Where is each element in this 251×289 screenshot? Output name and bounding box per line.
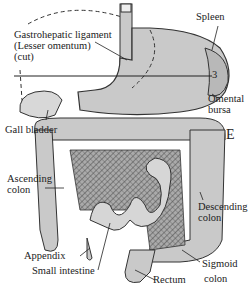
esophagus [120, 4, 132, 62]
ascending-colon [35, 130, 58, 251]
label-gastrohepatic-ligament: Gastrohepatic ligament [14, 29, 112, 40]
label-section-3: 3 [212, 69, 217, 80]
label-omental: Omental [208, 93, 244, 104]
panel-letter: E [226, 129, 235, 140]
label-rectum: Rectum [153, 274, 186, 285]
gall-bladder [20, 91, 62, 118]
appendix [87, 238, 92, 260]
label-appendix: Appendix [24, 250, 65, 261]
liver-outline-dashed [28, 10, 125, 24]
label-lesser-omentum: (Lesser omentum) [14, 40, 91, 51]
label-ascending: Ascending [7, 173, 52, 184]
label-descending-colon: colon [198, 212, 221, 223]
label-gall-bladder: Gall bladder [5, 124, 57, 135]
label-sigmoid: Sigmoid [202, 258, 238, 269]
label-small-intestine: Small intestine [32, 265, 95, 276]
stomach [78, 28, 229, 115]
label-bursa: bursa [208, 104, 231, 115]
label-spleen: Spleen [196, 11, 225, 22]
label-sigmoid-colon: colon [204, 273, 227, 284]
label-descending: Descending [198, 201, 248, 212]
label-cut: (cut) [14, 51, 34, 62]
label-ascending-colon: colon [7, 184, 30, 195]
